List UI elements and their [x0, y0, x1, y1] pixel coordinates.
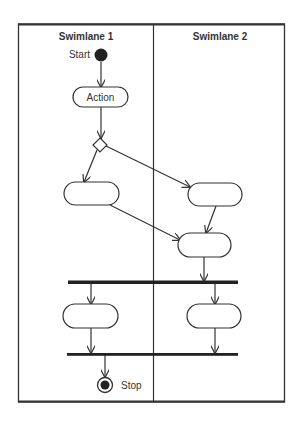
stop-node-icon [98, 378, 113, 393]
stop-label: Stop [121, 380, 142, 391]
action-label: Action [87, 92, 115, 103]
activity-node-lane1-b[interactable] [63, 304, 118, 328]
activity-node-lane1-a[interactable] [64, 182, 119, 205]
activity-node-lane2-a[interactable] [188, 183, 242, 206]
start-label: Start [69, 49, 90, 60]
start-node-icon [95, 49, 108, 62]
activity-diagram: Swimlane 1 Swimlane 2 Start Action St [0, 0, 297, 426]
activity-node-lane2-c[interactable] [187, 304, 241, 328]
activity-node-lane2-b[interactable] [178, 233, 231, 257]
swimlane-1-title: Swimlane 1 [59, 31, 114, 42]
swimlane-frame [18, 24, 285, 402]
join-bar [67, 353, 238, 356]
action-node[interactable]: Action [73, 87, 128, 107]
fork-bar [68, 281, 238, 285]
swimlane-2-title: Swimlane 2 [193, 31, 248, 42]
